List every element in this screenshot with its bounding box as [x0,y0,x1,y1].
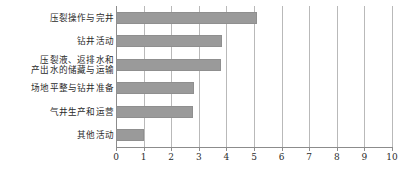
x-tick-7 [309,147,310,151]
bar [116,59,221,71]
x-tick-2 [171,147,172,151]
x-tick-label-7: 7 [306,152,312,162]
x-tick-5 [254,147,255,151]
bar [116,129,144,141]
x-tick-1 [144,147,145,151]
x-tick-label-0: 0 [113,152,119,162]
category-label: 气井生产和运营 [0,107,114,117]
x-tick-label-10: 10 [386,152,397,162]
gridline-4 [226,6,227,147]
category-label: 钻井活动 [0,36,114,46]
x-tick-9 [364,147,365,151]
gridline-2 [171,6,172,147]
x-tick-label-3: 3 [196,152,202,162]
bar [116,12,257,24]
gridline-6 [282,6,283,147]
x-tick-label-8: 8 [334,152,340,162]
x-tick-3 [199,147,200,151]
x-tick-0 [116,147,117,151]
gridline-3 [199,6,200,147]
bar-chart: 压裂操作与完井钻井活动压裂液、返排水和 产出水的储藏与运输场地平整与钻井准备气井… [0,0,418,175]
x-tick-label-2: 2 [168,152,174,162]
gridline-7 [309,6,310,147]
category-label: 压裂液、返排水和 产出水的储藏与运输 [0,54,114,75]
x-tick-6 [282,147,283,151]
x-tick-10 [392,147,393,151]
bar [116,35,222,47]
x-tick-8 [337,147,338,151]
plot-area [116,6,392,147]
x-tick-4 [226,147,227,151]
bar [116,82,194,94]
category-label: 场地平整与钻井准备 [0,83,114,93]
category-axis-labels: 压裂操作与完井钻井活动压裂液、返排水和 产出水的储藏与运输场地平整与钻井准备气井… [0,0,114,147]
gridline-9 [364,6,365,147]
category-label: 压裂操作与完井 [0,13,114,23]
gridline-10 [392,6,393,147]
gridline-0 [116,6,117,147]
x-tick-label-6: 6 [279,152,285,162]
x-tick-label-9: 9 [362,152,368,162]
gridline-1 [144,6,145,147]
gridline-8 [337,6,338,147]
x-tick-label-4: 4 [224,152,230,162]
x-tick-label-5: 5 [251,152,257,162]
gridline-5 [254,6,255,147]
category-label: 其他活动 [0,130,114,140]
x-tick-label-1: 1 [141,152,147,162]
bar [116,106,193,118]
